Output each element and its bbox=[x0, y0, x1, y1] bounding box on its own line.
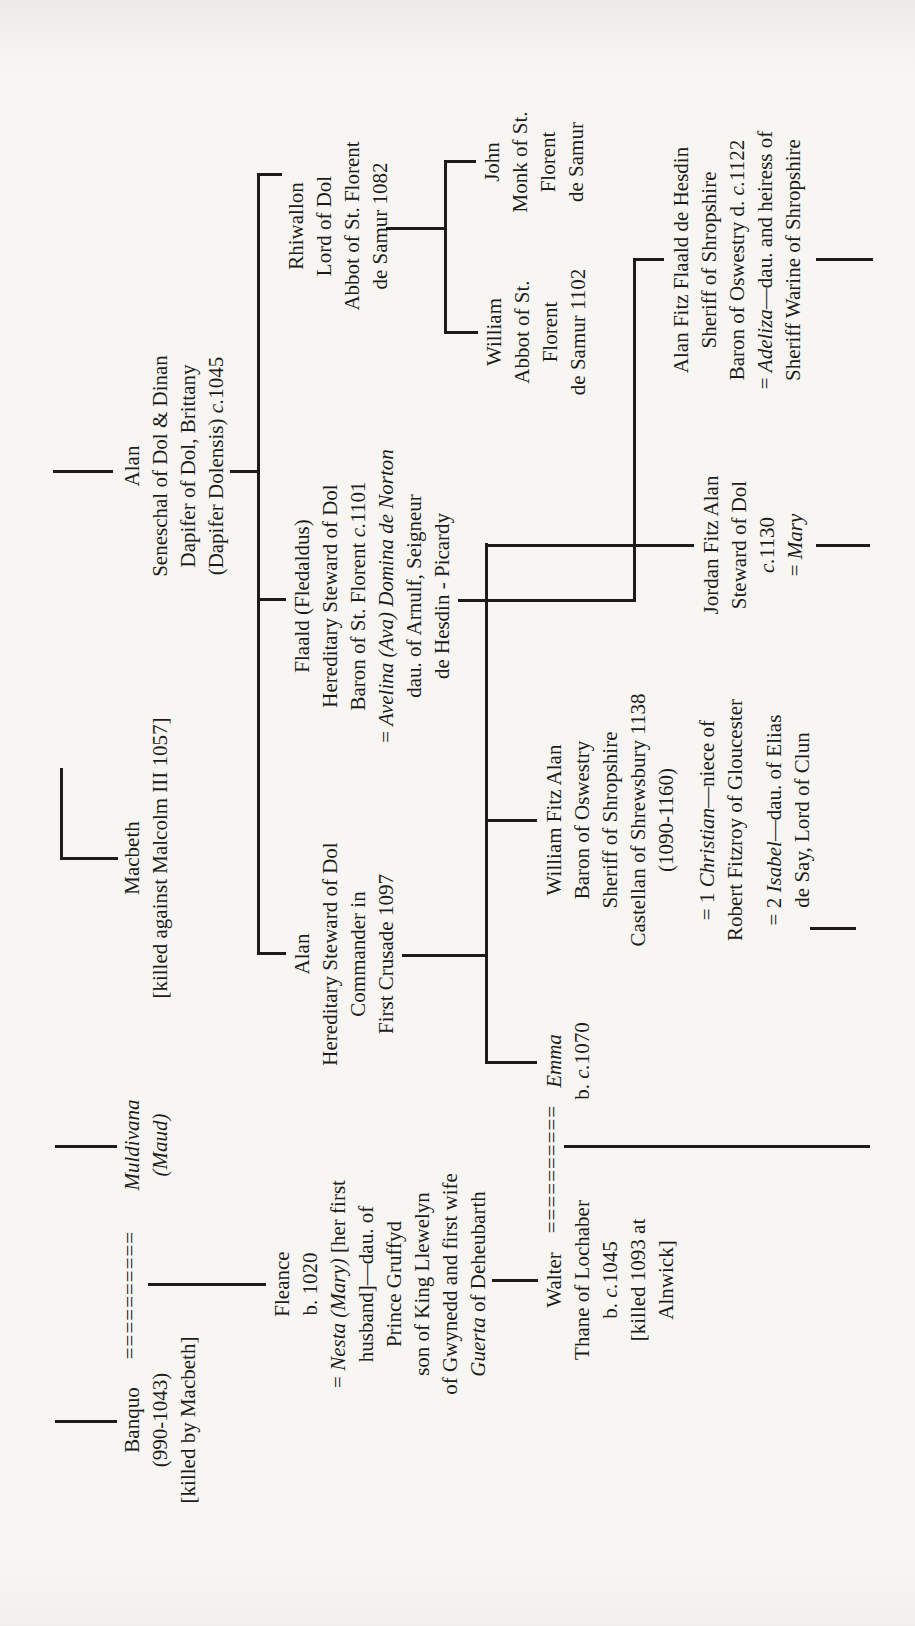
person-marriage-walter-emma: ========== bbox=[538, 1105, 566, 1233]
connector-rail-flaald-to-aff bbox=[633, 258, 636, 602]
person-flaald-line-3: = Avelina (Ava) Domina de Norton bbox=[372, 449, 400, 743]
person-alan-crusader-line-3: First Crusade 1097 bbox=[372, 842, 400, 1065]
connector-descent-alan-crusader bbox=[402, 954, 487, 957]
person-rhiwallon: RhiwallonLord of DolAbbot of St. Florent… bbox=[282, 141, 394, 310]
connector-descent-walter-emma bbox=[564, 1145, 870, 1148]
connector-drop-muldivana bbox=[55, 1145, 117, 1148]
person-william-abbot-line-2: Florent bbox=[536, 269, 564, 395]
person-fleance-line-7: Guerta of Deheubarth bbox=[464, 1173, 492, 1395]
person-jordan-fitz-alan: Jordan Fitz AlanSteward of Dolc.1130= Ma… bbox=[697, 476, 809, 615]
connector-drop-jordan bbox=[485, 544, 694, 547]
person-alan-seneschal-line-2: Dapifer of Dol, Brittany bbox=[174, 355, 202, 577]
person-fleance: Fleanceb. 1020= Nesta (Mary) [her firsth… bbox=[268, 1173, 492, 1395]
person-william-fitz-alan: William Fitz AlanBaron of OswestrySherif… bbox=[540, 694, 816, 947]
person-fleance-line-6: of Gwynedd and first wife bbox=[436, 1173, 464, 1395]
person-muldivana: Muldivana(Maud) bbox=[118, 1100, 174, 1191]
person-alan-seneschal-line-3: (Dapifer Dolensis) c.1045 bbox=[202, 355, 230, 577]
person-walter-line-2: b. c.1045 bbox=[596, 1200, 624, 1360]
connector-descent-william-fitz-alan bbox=[810, 927, 856, 930]
person-fleance-line-4: Prince Gruffyd bbox=[380, 1173, 408, 1395]
person-john-monk-line-2: Florent bbox=[534, 112, 562, 213]
person-macbeth: Macbeth[killed against Malcolm III 1057] bbox=[118, 717, 174, 998]
person-alan-fitz-flaald-line-3: = Adeliza—dau. and heiress of bbox=[751, 131, 779, 390]
person-walter-line-3: [killed 1093 at bbox=[624, 1200, 652, 1360]
person-flaald-line-0: Flaald (Fledaldus) bbox=[288, 449, 316, 743]
person-rhiwallon-line-2: Abbot of St. Florent bbox=[338, 141, 366, 310]
connector-descent-alan-fitz-flaald bbox=[816, 258, 873, 261]
person-fleance-line-5: son of King Llewelyn bbox=[408, 1173, 436, 1395]
person-jordan-fitz-alan-line-3: = Mary bbox=[781, 476, 809, 615]
person-banquo-line-1: (990-1043) bbox=[146, 1337, 174, 1504]
connector-rail-samur-monks bbox=[444, 160, 447, 334]
person-banquo: Banquo(990-1043)[killed by Macbeth] bbox=[118, 1337, 202, 1504]
connector-descent-rhiwallon bbox=[386, 227, 446, 230]
person-flaald-line-2: Baron of St. Florent c.1101 bbox=[344, 449, 372, 743]
connector-drop-william-abbot bbox=[444, 331, 478, 334]
person-alan-seneschal-line-0: Alan bbox=[118, 355, 146, 577]
person-william-fitz-alan-line-6: Robert Fitzroy of Gloucester bbox=[721, 694, 749, 947]
person-alan-seneschal-line-1: Seneschal of Dol & Dinan bbox=[146, 355, 174, 577]
connector-drop-alan-fitz-flaald bbox=[633, 258, 664, 261]
person-alan-fitz-flaald: Alan Fitz Flaald de HesdinSheriff of Shr… bbox=[667, 131, 807, 390]
person-marriage-banquo-muldivana: ========== bbox=[116, 1231, 144, 1359]
person-jordan-fitz-alan-line-0: Jordan Fitz Alan bbox=[697, 476, 725, 615]
connector-drop-flaald bbox=[257, 598, 286, 601]
person-walter-line-1: Thane of Lochaber bbox=[568, 1200, 596, 1360]
person-alan-crusader-line-1: Hereditary Steward of Dol bbox=[316, 842, 344, 1065]
person-william-fitz-alan-line-1: Baron of Oswestry bbox=[568, 694, 596, 947]
person-rhiwallon-line-0: Rhiwallon bbox=[282, 141, 310, 310]
person-william-abbot-line-3: de Samur 1102 bbox=[564, 269, 592, 395]
connector-drop-emma bbox=[485, 1061, 537, 1064]
person-alan-fitz-flaald-line-2: Baron of Oswestry d. c.1122 bbox=[723, 131, 751, 390]
person-emma-line-1: b. c.1070 bbox=[568, 1022, 596, 1100]
connector-rail-macbeth-tail bbox=[60, 768, 63, 858]
connector-drop-rhiwallon bbox=[257, 173, 282, 176]
connector-rail-gen3 bbox=[485, 543, 488, 1064]
person-alan-crusader-line-2: Commander in bbox=[344, 842, 372, 1065]
person-flaald: Flaald (Fledaldus)Hereditary Steward of … bbox=[288, 449, 456, 743]
person-william-fitz-alan-line-3: Castellan of Shrewsbury 1138 bbox=[624, 694, 652, 947]
family-tree-rotated-stage: Banquo(990-1043)[killed by Macbeth]=====… bbox=[0, 0, 915, 1626]
person-jordan-fitz-alan-line-1: Steward of Dol bbox=[725, 476, 753, 615]
person-alan-fitz-flaald-line-1: Sheriff of Shropshire bbox=[695, 131, 723, 390]
person-walter-line-4: Alnwick] bbox=[652, 1200, 680, 1360]
connector-drop-john-monk bbox=[444, 160, 476, 163]
person-william-fitz-alan-line-2: Sheriff of Shropshire bbox=[596, 694, 624, 947]
connector-drop-fleance bbox=[148, 1283, 266, 1286]
person-rhiwallon-line-3: de Samur 1082 bbox=[366, 141, 394, 310]
connector-drop-walter bbox=[492, 1279, 538, 1282]
person-marriage-banquo-muldivana-line-0: ========== bbox=[116, 1231, 144, 1359]
person-banquo-line-0: Banquo bbox=[118, 1337, 146, 1504]
person-william-fitz-alan-line-0: William Fitz Alan bbox=[540, 694, 568, 947]
person-jordan-fitz-alan-line-2: c.1130 bbox=[753, 476, 781, 615]
connector-drop-macbeth bbox=[60, 857, 118, 860]
connector-riser-alan-seneschal bbox=[230, 470, 259, 473]
person-flaald-line-5: de Hesdin - Picardy bbox=[428, 449, 456, 743]
person-emma: Emmab. c.1070 bbox=[540, 1022, 596, 1100]
person-fleance-line-3: husband]—dau. of bbox=[352, 1173, 380, 1395]
person-alan-seneschal: AlanSeneschal of Dol & DinanDapifer of D… bbox=[118, 355, 230, 577]
person-william-abbot-line-0: William bbox=[480, 269, 508, 395]
person-alan-fitz-flaald-line-0: Alan Fitz Flaald de Hesdin bbox=[667, 131, 695, 390]
person-muldivana-line-0: Muldivana bbox=[118, 1100, 146, 1191]
person-john-monk-line-0: John bbox=[478, 112, 506, 213]
person-marriage-walter-emma-line-0: ========== bbox=[538, 1105, 566, 1233]
person-emma-line-0: Emma bbox=[540, 1022, 568, 1100]
person-flaald-line-1: Hereditary Steward of Dol bbox=[316, 449, 344, 743]
person-john-monk-line-1: Monk of St. bbox=[506, 112, 534, 213]
person-muldivana-line-1: (Maud) bbox=[146, 1100, 174, 1191]
person-alan-fitz-flaald-line-4: Sheriff Warine of Shropshire bbox=[779, 131, 807, 390]
connector-drop-alan-crusader bbox=[257, 952, 286, 955]
person-william-fitz-alan-line-8: de Say, Lord of Clun bbox=[788, 694, 816, 947]
person-john-monk: JohnMonk of St.Florentde Samur bbox=[478, 112, 590, 213]
person-william-fitz-alan-line-4: (1090-1160) bbox=[652, 694, 680, 947]
person-rhiwallon-line-1: Lord of Dol bbox=[310, 141, 338, 310]
connector-descent-flaald bbox=[458, 599, 636, 602]
person-alan-crusader-line-0: Alan bbox=[288, 842, 316, 1065]
person-macbeth-line-1: [killed against Malcolm III 1057] bbox=[146, 717, 174, 998]
person-william-abbot-line-1: Abbot of St. bbox=[508, 269, 536, 395]
connector-drop-banquo bbox=[55, 1420, 117, 1423]
person-john-monk-line-3: de Samur bbox=[562, 112, 590, 213]
connector-descent-jordan bbox=[816, 544, 870, 547]
connector-drop-william-fitz-alan bbox=[485, 819, 537, 822]
